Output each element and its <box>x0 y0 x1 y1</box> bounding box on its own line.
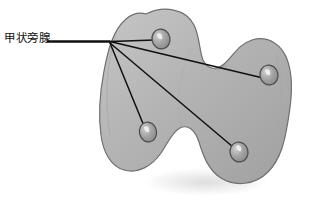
anatomy-diagram: 甲状旁腺 <box>0 0 309 206</box>
thyroid-gland-body <box>100 9 292 183</box>
label-parathyroid: 甲状旁腺 <box>4 31 50 45</box>
